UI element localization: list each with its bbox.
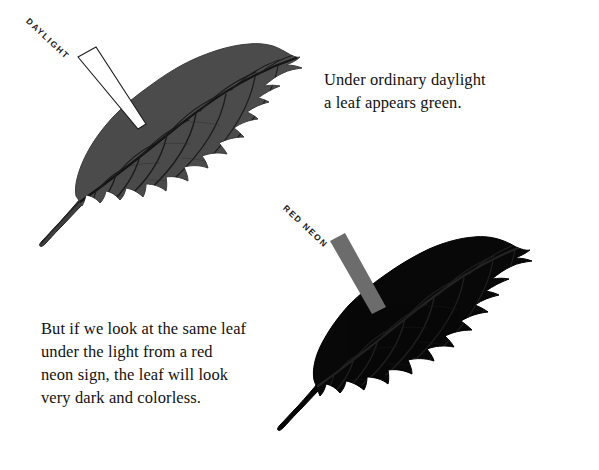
redneon-caption-line-4: very dark and colorless. xyxy=(41,386,252,409)
daylight-beam-wedge xyxy=(78,47,146,129)
daylight-leaf-group xyxy=(40,44,302,247)
daylight-beam xyxy=(78,47,146,129)
redneon-leaf-group xyxy=(278,237,532,431)
daylight-leaf-stem-highlight xyxy=(41,201,80,244)
redneon-caption-line-1: But if we look at the same leaf xyxy=(41,317,252,340)
daylight-caption-line-1: Under ordinary daylight xyxy=(324,68,539,91)
redneon-caption-line-2: under the light from a red xyxy=(41,340,252,363)
redneon-caption: But if we look at the same leaf under th… xyxy=(41,317,252,409)
illustration-page: DAYLIGHT RED NEON Under ordinary dayligh… xyxy=(0,0,599,470)
daylight-caption: Under ordinary daylight a leaf appears g… xyxy=(324,68,539,114)
redneon-caption-line-3: neon sign, the leaf will look xyxy=(41,363,252,386)
redneon-leaf-stem xyxy=(278,383,320,430)
daylight-caption-line-2: a leaf appears green. xyxy=(324,91,539,114)
